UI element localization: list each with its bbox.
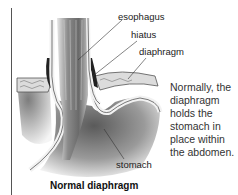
description-line: holds the (170, 107, 238, 120)
description-line: stomach in (170, 120, 238, 133)
label-hiatus: hiatus (131, 30, 156, 40)
leader-hiatus (93, 41, 137, 76)
label-diaphragm: diaphragm (139, 47, 184, 57)
label-esophagus: esophagus (118, 12, 164, 22)
description-text: Normally, the diaphragm holds the stomac… (170, 81, 238, 159)
description-line: the abdomen. (170, 146, 238, 159)
description-line: place within (170, 133, 238, 146)
label-stomach: stomach (116, 160, 152, 170)
figure-caption: Normal diaphragm (50, 180, 138, 191)
description-line: Normally, the (170, 81, 238, 94)
description-line: diaphragm (170, 94, 238, 107)
